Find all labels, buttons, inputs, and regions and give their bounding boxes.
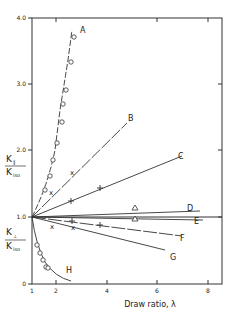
plot-frame: [32, 18, 222, 284]
label-b: B: [128, 114, 134, 123]
chart: 0 1.0 2.0 3.0 4.0 1 2 4 6 8 Draw ratio, …: [0, 0, 233, 319]
label-c: C: [178, 152, 184, 161]
y-tick-0: 0: [22, 280, 26, 287]
svg-text:K: K: [6, 154, 13, 164]
svg-text:K: K: [6, 227, 13, 237]
y-tick-4: 4.0: [16, 14, 26, 21]
series-f-line: [32, 217, 182, 236]
series-c-line: [32, 156, 182, 217]
series-d-line: [32, 211, 200, 217]
x-tick-labels: 1 2 4 6 8: [30, 287, 210, 294]
y-ticks: [28, 18, 222, 284]
x-tick-8: 8: [206, 287, 210, 294]
series-g-line: [32, 217, 165, 250]
label-g: G: [170, 253, 176, 262]
series-labels: A B C D E F G H: [66, 26, 199, 275]
y-tick-1: 1.0: [16, 213, 26, 220]
x-axis-label: Draw ratio, λ: [124, 300, 176, 309]
svg-text:K: K: [6, 167, 13, 177]
x-tick-1: 1: [30, 287, 34, 294]
svg-text:⊥: ⊥: [13, 233, 17, 239]
svg-text:iso: iso: [13, 246, 20, 252]
x-tick-6: 6: [155, 287, 159, 294]
label-d: D: [187, 204, 193, 213]
svg-text:K: K: [6, 241, 13, 251]
label-h: H: [66, 266, 72, 275]
svg-text:x: x: [49, 189, 53, 197]
svg-text:x: x: [70, 169, 74, 177]
x-tick-4: 4: [105, 287, 109, 294]
y-axis-label-upper: K ∥ K iso: [5, 154, 26, 178]
label-a: A: [80, 26, 86, 35]
svg-text:x: x: [71, 224, 75, 232]
series-b-line: [32, 123, 127, 217]
y-axis-label-lower: K ⊥ K iso: [5, 227, 26, 252]
svg-text:x: x: [50, 223, 54, 231]
plus-markers: [68, 185, 103, 228]
svg-text:∥: ∥: [13, 159, 16, 166]
label-f: F: [180, 234, 185, 243]
y-tick-2: 2.0: [16, 146, 26, 153]
svg-text:iso: iso: [13, 172, 20, 178]
y-tick-3: 3.0: [16, 80, 26, 87]
label-e: E: [194, 217, 199, 226]
x-tick-2: 2: [54, 287, 58, 294]
